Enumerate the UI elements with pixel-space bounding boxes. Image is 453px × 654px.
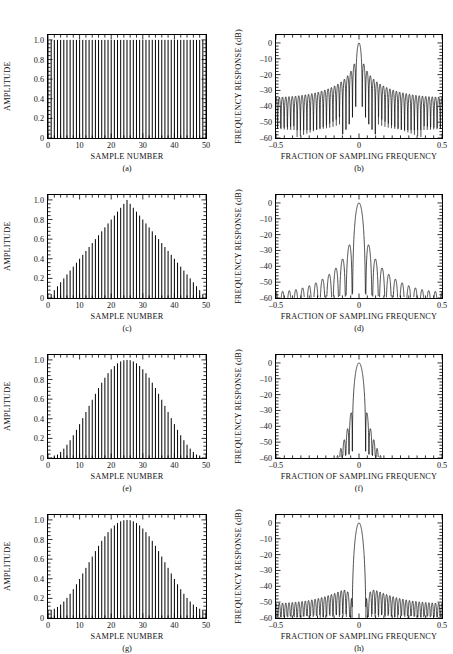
y-axis-label: AMPLITUDE — [3, 354, 15, 459]
ytick-label: 1.0 — [21, 515, 44, 524]
xtick-label: 0 — [357, 301, 361, 310]
xtick-label: 0.5 — [437, 141, 447, 150]
y-axis-label: AMPLITUDE — [3, 194, 15, 299]
xtick-label: 0 — [357, 621, 361, 630]
stem-plot-a — [48, 35, 206, 138]
ytick-label: 0.6 — [21, 75, 44, 84]
xtick-label: 10 — [76, 141, 84, 150]
xtick-label: –0.5 — [269, 301, 283, 310]
y-axis-label: AMPLITUDE — [3, 514, 15, 619]
ytick-label: 0 — [21, 294, 44, 303]
ytick-label: –20 — [251, 70, 272, 79]
ytick-label: –30 — [251, 406, 272, 415]
xtick-label: 0 — [357, 141, 361, 150]
panel-c: 00.20.40.60.81.001020304050AMPLITUDESAMP… — [0, 172, 228, 332]
panel-e: 00.20.40.60.81.001020304050AMPLITUDESAMP… — [0, 332, 228, 492]
x-axis-label: FRACTION OF SAMPLING FREQUENCY — [267, 312, 451, 321]
y-axis-label: FREQUENCY RESPONSE (dB) — [234, 348, 246, 465]
ytick-label: 0 — [21, 134, 44, 143]
subplot-caption: (h) — [275, 644, 443, 653]
ytick-label: –40 — [251, 422, 272, 431]
response-curve-b — [276, 35, 442, 138]
ytick-label: –50 — [251, 598, 272, 607]
ytick-label: –20 — [251, 550, 272, 559]
plot-area-b — [275, 34, 443, 139]
panel-d: 0–10–20–30–40–50–60–0.500.5FREQUENCY RES… — [228, 172, 453, 332]
panel-a: 00.20.40.60.81.001020304050AMPLITUDESAMP… — [0, 12, 228, 172]
xtick-label: 30 — [139, 141, 147, 150]
stem-plot-c — [48, 195, 206, 298]
ytick-label: –10 — [251, 374, 272, 383]
ytick-label: 0.4 — [21, 414, 44, 423]
xtick-label: 20 — [107, 301, 115, 310]
x-axis-label: FRACTION OF SAMPLING FREQUENCY — [267, 152, 451, 161]
x-axis-label: FRACTION OF SAMPLING FREQUENCY — [267, 472, 451, 481]
ytick-label: 0.2 — [21, 594, 44, 603]
xtick-label: 0 — [46, 301, 50, 310]
ytick-label: 0.2 — [21, 114, 44, 123]
ytick-label: –40 — [251, 582, 272, 591]
ytick-label: 0 — [251, 38, 272, 47]
x-axis-label: SAMPLE NUMBER — [47, 312, 207, 321]
xtick-label: 30 — [139, 301, 147, 310]
ytick-label: 0.6 — [21, 395, 44, 404]
xtick-label: 40 — [170, 461, 178, 470]
plot-area-f — [275, 354, 443, 459]
xtick-label: 30 — [139, 461, 147, 470]
ytick-label: 0 — [21, 454, 44, 463]
figure-row: 00.20.40.60.81.001020304050AMPLITUDESAMP… — [0, 12, 453, 172]
xtick-label: 0.5 — [437, 301, 447, 310]
xtick-label: 20 — [107, 141, 115, 150]
xtick-label: 50 — [202, 621, 210, 630]
xtick-label: –0.5 — [269, 461, 283, 470]
xtick-label: 50 — [202, 461, 210, 470]
panel-b: 0–10–20–30–40–50–60–0.500.5FREQUENCY RES… — [228, 12, 453, 172]
xtick-label: 0.5 — [437, 461, 447, 470]
xtick-label: 50 — [202, 141, 210, 150]
stem-plot-e — [48, 355, 206, 458]
ytick-label: 0.4 — [21, 94, 44, 103]
ytick-label: 1.0 — [21, 35, 44, 44]
ytick-label: –40 — [251, 262, 272, 271]
plot-area-d — [275, 194, 443, 299]
figure-row: 00.20.40.60.81.001020304050AMPLITUDESAMP… — [0, 492, 453, 652]
x-axis-label: SAMPLE NUMBER — [47, 152, 207, 161]
xtick-label: 20 — [107, 461, 115, 470]
ytick-label: 0.8 — [21, 375, 44, 384]
plot-area-a — [47, 34, 207, 139]
panel-g: 00.20.40.60.81.001020304050AMPLITUDESAMP… — [0, 492, 228, 652]
ytick-label: –50 — [251, 438, 272, 447]
ytick-label: 0.2 — [21, 434, 44, 443]
xtick-label: 0.5 — [437, 621, 447, 630]
figure-row: 00.20.40.60.81.001020304050AMPLITUDESAMP… — [0, 332, 453, 492]
x-axis-label: SAMPLE NUMBER — [47, 472, 207, 481]
xtick-label: 0 — [46, 621, 50, 630]
xtick-label: –0.5 — [269, 621, 283, 630]
panel-h: 0–10–20–30–40–50–60–0.500.5FREQUENCY RES… — [228, 492, 453, 652]
plot-area-h — [275, 514, 443, 619]
response-curve-h — [276, 515, 442, 618]
ytick-label: –50 — [251, 118, 272, 127]
xtick-label: 50 — [202, 301, 210, 310]
ytick-label: 0.2 — [21, 274, 44, 283]
ytick-label: –50 — [251, 278, 272, 287]
xtick-label: –0.5 — [269, 141, 283, 150]
ytick-label: –10 — [251, 54, 272, 63]
xtick-label: 10 — [76, 621, 84, 630]
ytick-label: –20 — [251, 390, 272, 399]
ytick-label: –30 — [251, 86, 272, 95]
ytick-label: –30 — [251, 566, 272, 575]
response-curve-f — [276, 355, 442, 458]
plot-area-c — [47, 194, 207, 299]
ytick-label: 0.6 — [21, 555, 44, 564]
ytick-label: 0.4 — [21, 574, 44, 583]
ytick-label: 0 — [21, 614, 44, 623]
window-functions-figure: 00.20.40.60.81.001020304050AMPLITUDESAMP… — [0, 0, 453, 654]
xtick-label: 30 — [139, 621, 147, 630]
xtick-label: 10 — [76, 301, 84, 310]
xtick-label: 0 — [357, 461, 361, 470]
ytick-label: 0.8 — [21, 215, 44, 224]
ytick-label: –10 — [251, 214, 272, 223]
xtick-label: 40 — [170, 301, 178, 310]
xtick-label: 10 — [76, 461, 84, 470]
